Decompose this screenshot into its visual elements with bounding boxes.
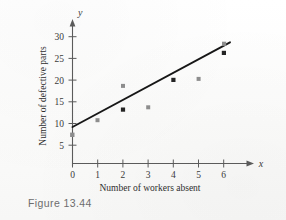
y-tick-label-20: 20 <box>55 76 65 86</box>
data-point <box>96 118 100 122</box>
x-axis-variable-label: x <box>258 158 264 169</box>
x-tick-label-5: 5 <box>196 170 201 180</box>
y-tick-label-25: 25 <box>55 54 65 64</box>
y-axis-arrowhead <box>70 19 76 27</box>
x-tick-label-0: 0 <box>70 170 75 180</box>
data-point <box>197 77 201 81</box>
y-tick-label-30: 30 <box>55 32 65 42</box>
x-tick-label-6: 6 <box>221 170 226 180</box>
data-point <box>70 133 74 137</box>
figure-caption: Figure 13.44 <box>28 197 92 209</box>
data-point <box>222 51 226 55</box>
y-tick-label-10: 10 <box>55 119 65 129</box>
data-point <box>146 105 150 109</box>
x-axis-group: 0 1 2 3 4 5 6 x Number of workers absent <box>70 158 264 193</box>
x-tick-label-3: 3 <box>146 170 151 180</box>
scatter-plot: 5 10 15 20 25 30 y Number of defective p… <box>0 0 286 220</box>
y-tick-label-5: 5 <box>59 141 64 151</box>
trendline-group <box>73 42 231 127</box>
y-axis-variable-label: y <box>77 7 83 18</box>
data-point <box>121 108 125 112</box>
x-tick-label-2: 2 <box>121 170 126 180</box>
data-point <box>222 42 226 46</box>
x-axis-title: Number of workers absent <box>99 183 200 193</box>
y-axis-group: 5 10 15 20 25 30 y Number of defective p… <box>38 7 83 166</box>
x-axis-arrowhead <box>247 161 255 167</box>
data-point <box>171 78 175 82</box>
x-tick-label-1: 1 <box>95 170 100 180</box>
figure-container: 5 10 15 20 25 30 y Number of defective p… <box>0 0 286 220</box>
data-point <box>121 84 125 88</box>
x-tick-label-4: 4 <box>171 170 176 180</box>
regression-line <box>73 42 231 127</box>
y-axis-title: Number of defective parts <box>38 46 48 146</box>
y-tick-label-15: 15 <box>55 97 65 107</box>
